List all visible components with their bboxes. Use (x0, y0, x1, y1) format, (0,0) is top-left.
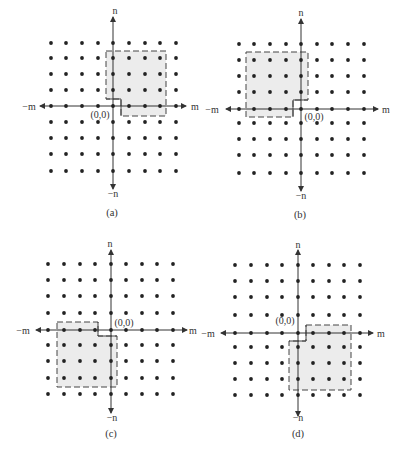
lattice-point (62, 392, 66, 396)
lattice-point (96, 41, 100, 45)
lattice-point (174, 56, 178, 60)
lattice-point (111, 56, 115, 60)
lattice-point (155, 328, 159, 332)
lattice-point (311, 377, 315, 381)
lattice-point (252, 58, 256, 62)
lattice-figure: n−nm−m(0,0)(a)n−nm−m(0,0)(b)n−nm−m(0,0)(… (0, 0, 404, 454)
lattice-point (346, 137, 350, 141)
lattice-point (311, 345, 315, 349)
lattice-point (346, 58, 350, 62)
lattice-point (311, 393, 315, 397)
panel-caption: (a) (106, 207, 118, 219)
lattice-point (64, 41, 68, 45)
lattice-point (233, 313, 237, 317)
lattice-point (311, 279, 315, 283)
lattice-point (342, 377, 346, 381)
lattice-point (358, 377, 362, 381)
panel-a: n−nm−m(0,0)(a) (22, 5, 199, 219)
lattice-point (171, 392, 175, 396)
lattice-point (330, 74, 334, 78)
lattice-point (158, 120, 162, 124)
lattice-point (78, 311, 82, 315)
lattice-point (299, 107, 303, 111)
lattice-point (46, 392, 50, 396)
lattice-point (296, 393, 300, 397)
lattice-point (124, 278, 128, 282)
lattice-point (111, 41, 115, 45)
lattice-point (249, 345, 253, 349)
neg-n-axis-label: −n (108, 188, 119, 199)
lattice-point (342, 313, 346, 317)
lattice-point (140, 294, 144, 298)
lattice-point (49, 104, 53, 108)
lattice-point (174, 120, 178, 124)
lattice-point (252, 90, 256, 94)
lattice-point (109, 359, 113, 363)
neg-m-axis-label: −m (22, 101, 36, 112)
lattice-point (109, 278, 113, 282)
lattice-point (299, 121, 303, 125)
lattice-point (252, 121, 256, 125)
lattice-point (268, 42, 272, 46)
lattice-point (358, 263, 362, 267)
lattice-point (358, 295, 362, 299)
lattice-point (140, 328, 144, 332)
lattice-point (280, 279, 284, 283)
lattice-point (311, 263, 315, 267)
lattice-point (155, 278, 159, 282)
lattice-point (140, 343, 144, 347)
lattice-point (143, 41, 147, 45)
lattice-point (346, 107, 350, 111)
lattice-point (249, 313, 253, 317)
lattice-point (62, 376, 66, 380)
lattice-point (233, 279, 237, 283)
lattice-point (140, 278, 144, 282)
lattice-point (127, 56, 131, 60)
lattice-point (237, 74, 241, 78)
lattice-point (311, 331, 315, 335)
panel-d: n−nm−m(0,0)(d) (201, 239, 385, 440)
lattice-point (46, 262, 50, 266)
lattice-point (80, 120, 84, 124)
lattice-point (46, 278, 50, 282)
origin-label: (0,0) (304, 111, 323, 123)
lattice-point (93, 328, 97, 332)
lattice-point (111, 88, 115, 92)
lattice-point (111, 72, 115, 76)
lattice-point (237, 58, 241, 62)
neg-m-axis-label: −m (201, 328, 215, 339)
lattice-point (93, 392, 97, 396)
lattice-point (280, 263, 284, 267)
lattice-point (252, 171, 256, 175)
lattice-point (158, 136, 162, 140)
lattice-point (155, 376, 159, 380)
lattice-point (330, 58, 334, 62)
lattice-point (268, 107, 272, 111)
lattice-point (311, 361, 315, 365)
lattice-point (265, 263, 269, 267)
lattice-point (109, 294, 113, 298)
lattice-point (284, 42, 288, 46)
lattice-point (111, 169, 115, 173)
lattice-point (171, 359, 175, 363)
lattice-point (93, 311, 97, 315)
lattice-point (78, 376, 82, 380)
lattice-point (233, 345, 237, 349)
lattice-point (280, 377, 284, 381)
m-axis-label: m (382, 104, 390, 115)
lattice-point (171, 294, 175, 298)
lattice-point (64, 120, 68, 124)
lattice-point (109, 343, 113, 347)
lattice-point (155, 343, 159, 347)
lattice-point (124, 294, 128, 298)
lattice-point (284, 74, 288, 78)
lattice-point (342, 295, 346, 299)
lattice-point (93, 343, 97, 347)
lattice-point (49, 41, 53, 45)
m-axis-label: m (191, 101, 199, 112)
lattice-point (124, 311, 128, 315)
n-axis-label: n (299, 7, 304, 18)
lattice-point (346, 121, 350, 125)
lattice-point (233, 331, 237, 335)
lattice-point (362, 90, 366, 94)
